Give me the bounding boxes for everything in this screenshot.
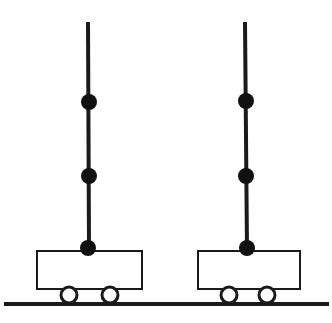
- wheel-left-icon: [61, 287, 77, 303]
- wheel-right-icon: [102, 287, 118, 303]
- bead-upper: [81, 94, 97, 110]
- pendulum-rod: [245, 22, 247, 250]
- pendulum-rod: [88, 22, 89, 250]
- bead-pivot: [80, 240, 96, 256]
- cart-body: [198, 251, 300, 289]
- bead-pivot: [239, 240, 255, 256]
- left-cart-pendulum: [37, 22, 142, 303]
- bead-middle: [81, 168, 97, 184]
- wheel-right-icon: [259, 287, 275, 303]
- wheel-left-icon: [221, 287, 237, 303]
- pendulum-cart-diagram: [0, 0, 332, 323]
- bead-upper: [238, 93, 254, 109]
- bead-middle: [238, 168, 254, 184]
- figure-canvas: [0, 0, 332, 323]
- right-cart-pendulum: [198, 22, 300, 303]
- cart-body: [37, 251, 142, 289]
